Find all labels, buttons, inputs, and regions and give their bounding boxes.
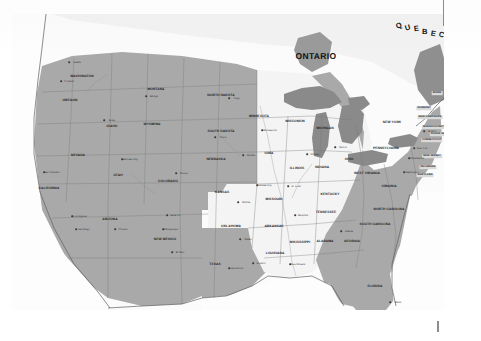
map-plate[interactable]: ONTARIOQUEBECWASHINGTONOREGONIDAHOMONTAN… — [12, 14, 444, 310]
map-graphic — [12, 14, 444, 310]
registration-tick-bottom-icon — [437, 321, 439, 332]
screenshot-viewport: ONTARIOQUEBECWASHINGTONOREGONIDAHOMONTAN… — [0, 0, 481, 341]
registration-tick-top-icon — [443, 0, 444, 26]
